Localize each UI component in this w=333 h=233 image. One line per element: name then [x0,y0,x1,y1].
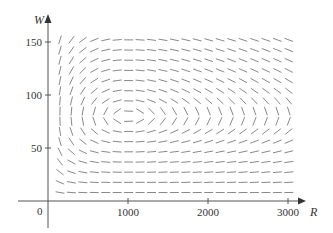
slope-segment [136,109,144,114]
slope-segment [159,79,168,81]
slope-segment [82,107,83,116]
y-tick-label: 150 [26,36,43,48]
direction-field-plot: R W 100020003000 50100150 0 [0,0,333,233]
slope-segment [69,36,74,43]
slope-segment [230,117,234,125]
slope-segment [182,59,191,61]
slope-segment [228,129,235,134]
slope-segment [286,98,292,105]
slope-segment [59,127,60,136]
slope-segment [193,39,202,41]
slope-segment [147,141,156,142]
slope-segment [172,107,177,115]
slope-segment [101,39,110,41]
slope-segment [264,107,267,116]
slope-segment [71,107,72,116]
slope-segment [193,79,201,82]
slope-segment [147,39,156,40]
slope-segment [239,38,248,41]
slope-segment [262,68,270,72]
slope-segment [101,59,110,61]
slope-segment [273,38,281,41]
slope-segment [250,172,259,173]
slope-segment [284,172,293,173]
slope-segment [262,38,270,41]
slope-segment [103,117,108,125]
origin-label: 0 [37,205,43,217]
slope-segment [78,182,87,183]
slope-segment [159,99,167,103]
slope-segment [239,161,248,162]
slope-segment [205,69,213,72]
slope-segment [276,117,279,125]
slope-segment [284,161,293,162]
slope-segment [59,36,62,45]
slope-segment [147,80,156,82]
slope-segment [69,138,74,145]
slope-segment [262,140,270,143]
slope-segment [91,129,98,135]
slope-segment [204,140,213,143]
slope-segment [59,56,61,65]
slope-segment [241,117,244,125]
y-ticks: 50100150 [26,36,52,154]
slope-segment [113,39,122,40]
slope-segment [182,69,191,72]
slope-segment [182,89,190,93]
slope-segment [262,151,271,153]
slope-segment [264,117,267,125]
slope-segment [193,59,202,62]
slope-segment [57,158,63,165]
slope-segment [91,88,98,94]
slope-segment [170,89,178,93]
slope-segment [193,162,202,163]
slope-segment [251,129,258,134]
y-tick-label: 50 [31,142,43,154]
slope-segment [102,89,110,93]
x-tick-label: 3000 [277,206,300,218]
slope-segment [160,107,165,114]
slope-segment [148,108,154,115]
slope-segment [250,161,259,162]
slope-segment [113,80,122,81]
slope-segment [113,152,122,153]
slope-segment [262,58,270,62]
slope-segment [80,77,86,84]
slope-segment [170,162,179,163]
slope-segment [207,117,211,125]
slope-segment [70,97,72,106]
slope-segment [101,141,110,143]
slope-segment [239,172,248,173]
slope-segment [147,60,156,61]
slope-segment [59,137,61,146]
slope-segment [218,107,221,115]
slope-segment [276,107,279,116]
slope-segment [136,60,145,61]
slope-segment [227,49,236,52]
slope-segment [181,49,190,51]
slope-segment [216,69,224,72]
slope-segment [184,117,188,125]
slope-segment [227,140,236,143]
slope-segment [79,57,86,63]
slope-segment [216,129,224,134]
slope-segment [170,59,179,61]
slope-segment [216,39,225,42]
slope-segment [59,86,60,95]
slope-segment [227,172,236,173]
slope-segment [136,80,145,81]
slope-segment [274,88,281,93]
slope-segment [204,161,213,162]
slope-segment [239,78,247,82]
slope-segment [250,151,259,153]
slope-segment [56,181,64,185]
slope-segment [90,38,98,41]
slope-segment [60,96,61,105]
slope-segment [273,172,282,173]
slope-segment [90,140,98,144]
slope-segment [287,107,290,116]
slope-segment [69,66,73,74]
slope-segment [79,47,86,53]
slope-segment [262,129,269,134]
slope-segment [170,130,178,134]
